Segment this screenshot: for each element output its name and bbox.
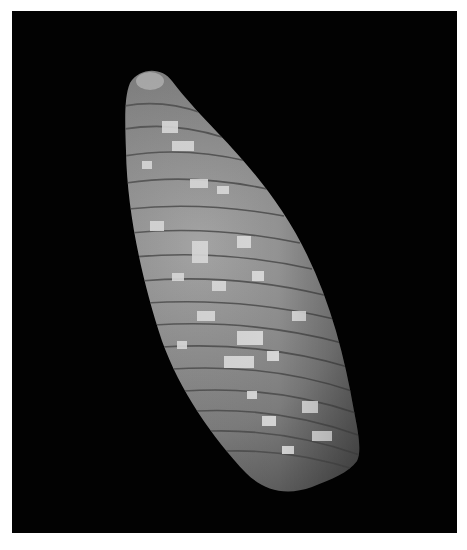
shell-body — [12, 11, 457, 533]
shell-apex — [136, 72, 164, 90]
photo-frame — [12, 11, 457, 533]
shell-image — [12, 11, 457, 533]
